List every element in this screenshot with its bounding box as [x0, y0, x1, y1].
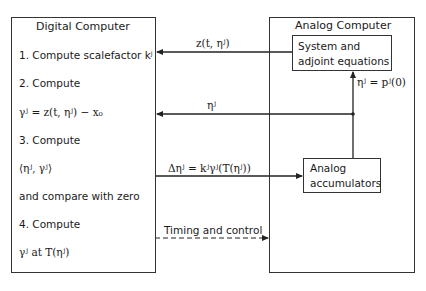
- eta-init-label: ηʲ = pʲ(0): [357, 76, 406, 88]
- digital-computer-title: Digital Computer: [36, 21, 130, 33]
- z-signal-label: z(t, ηʲ): [196, 37, 230, 49]
- gamma-at-T-formula: γʲ at T(ηʲ): [19, 246, 69, 258]
- step-4-label: 4. Compute: [19, 218, 80, 230]
- accumulator-block-line1: Analog: [310, 162, 346, 174]
- step-2-label: 2. Compute: [19, 77, 80, 89]
- gamma-formula: γʲ = z(t, ηʲ) − x₀: [19, 106, 103, 118]
- compare-with-zero-label: and compare with zero: [19, 190, 140, 202]
- timing-control-label: Timing and control: [164, 224, 262, 236]
- step-1-label: 1. Compute scalefactor kʲ: [19, 49, 153, 61]
- step-3-label: 3. Compute: [19, 134, 80, 146]
- inner-product-formula: ⟨ηʲ, γʲ⟩: [19, 162, 52, 174]
- eta-signal-label: ηʲ: [207, 99, 216, 111]
- delta-eta-label: Δηʲ = kʲγʲ(T(ηʲ)): [168, 162, 251, 174]
- accumulator-block-line2: accumulators: [310, 177, 381, 189]
- analog-computer-title: Analog Computer: [295, 20, 391, 32]
- system-block-line1: System and: [298, 40, 360, 52]
- system-block-line2: adjoint equations: [298, 55, 389, 67]
